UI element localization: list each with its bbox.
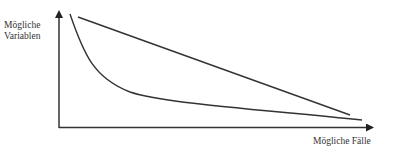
y-axis-label-line1: Mögliche [4,20,40,31]
diagram-graphic [0,0,393,154]
y-axis-label: Mögliche Variablen [4,20,40,42]
diagram: Mögliche Variablen Mögliche Fälle [0,0,393,154]
straight-line [78,17,350,115]
x-axis-label: Mögliche Fälle [313,136,371,147]
y-axis-label-line2: Variablen [4,31,40,42]
